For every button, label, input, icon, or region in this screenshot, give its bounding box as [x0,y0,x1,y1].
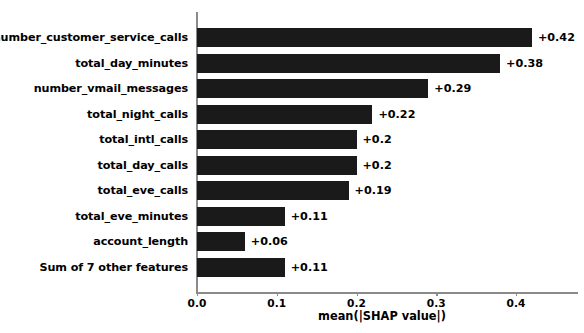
bar-row: total_eve_calls+0.19 [0,181,584,200]
y-axis-tick-label: number_vmail_messages [34,79,188,98]
bar-value-label: +0.38 [506,54,543,73]
y-axis-tick-label: account_length [93,232,188,251]
x-axis-title-text: mean(|SHAP value|) [318,309,446,323]
bar-row: number_customer_service_calls+0.42 [0,28,584,47]
bar-value-label: +0.2 [363,130,392,149]
x-axis-tick-label: 0.3 [427,297,446,309]
bar-row: total_day_calls+0.2 [0,156,584,175]
y-axis-tick-label: total_eve_minutes [75,207,188,226]
y-axis-tick-label: total_eve_calls [98,181,188,200]
bar [197,54,500,73]
x-axis-tick-label: 0.4 [507,297,526,309]
x-axis-title: mean(|SHAP value|) [0,309,584,323]
bar [197,105,372,124]
y-axis-tick-label: total_day_calls [98,156,188,175]
x-axis-tick-label: 0.2 [347,297,366,309]
bar-value-label: +0.42 [538,28,575,47]
bar [197,207,285,226]
bar-row: total_intl_calls+0.2 [0,130,584,149]
bar-row: Sum of 7 other features+0.11 [0,258,584,277]
x-axis-line [196,292,578,294]
bar [197,28,532,47]
bar-value-label: +0.22 [378,105,415,124]
bar [197,258,285,277]
x-axis-tick-label: 0.0 [188,297,207,309]
bar [197,79,428,98]
bar [197,232,245,251]
bar [197,156,357,175]
y-axis-tick-label: Sum of 7 other features [40,258,188,277]
bar-row: total_day_minutes+0.38 [0,54,584,73]
bar-value-label: +0.06 [251,232,288,251]
x-axis-tick-mark [436,292,437,296]
bar-value-label: +0.11 [291,258,328,277]
x-axis-tick-mark [277,292,278,296]
bar [197,130,357,149]
bar-row: total_eve_minutes+0.11 [0,207,584,226]
y-axis-tick-label: total_day_minutes [75,54,188,73]
y-axis-tick-label: total_night_calls [87,105,188,124]
bar-row: account_length+0.06 [0,232,584,251]
bar-value-label: +0.11 [291,207,328,226]
bar-row: total_night_calls+0.22 [0,105,584,124]
x-axis-tick-label: 0.1 [267,297,286,309]
bar-value-label: +0.2 [363,156,392,175]
bar-value-label: +0.19 [355,181,392,200]
x-axis-tick-mark [357,292,358,296]
x-axis-tick-mark [516,292,517,296]
bar-row: number_vmail_messages+0.29 [0,79,584,98]
y-axis-tick-label: number_customer_service_calls [0,28,188,47]
bar-value-label: +0.29 [434,79,471,98]
bar [197,181,349,200]
x-axis-tick-mark [197,292,198,296]
shap-bar-chart: number_customer_service_calls+0.42total_… [0,0,584,333]
y-axis-tick-label: total_intl_calls [99,130,188,149]
